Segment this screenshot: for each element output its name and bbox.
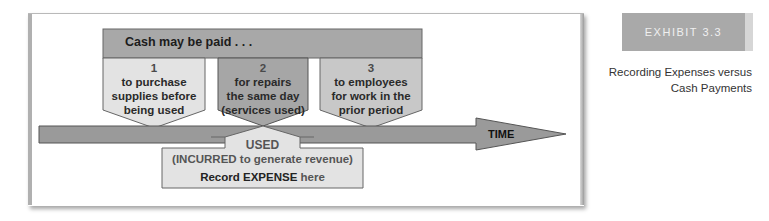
record-suffix: here	[301, 171, 325, 183]
used-title: USED	[162, 138, 363, 152]
box-3-line-1: to employees	[320, 75, 422, 89]
box-2-line-3: (services used)	[218, 103, 308, 117]
box-3-number: 3	[320, 61, 422, 75]
used-subtitle: (INCURRED to generate revenue)	[162, 153, 363, 165]
box-1-line-1: to purchase	[103, 75, 205, 89]
time-label: TIME	[488, 128, 514, 140]
record-prefix: Record	[200, 171, 240, 183]
box-1-line-2: supplies before	[103, 89, 205, 103]
box-2-line-2: the same day	[218, 89, 308, 103]
exhibit-caption: Recording Expenses versus Cash Payments	[582, 64, 752, 96]
box-2-line-1: for repairs	[218, 75, 308, 89]
box-1-text: 1 to purchase supplies before being used	[103, 61, 205, 117]
header-label: Cash may be paid . . .	[125, 35, 252, 49]
caption-line-2: Cash Payments	[582, 80, 752, 96]
box-1-number: 1	[103, 61, 205, 75]
used-record-line: Record EXPENSE here	[162, 171, 363, 183]
box-3-line-2: for work in the	[320, 89, 422, 103]
box-2-number: 2	[218, 61, 308, 75]
box-2-text: 2 for repairs the same day (services use…	[218, 61, 308, 117]
box-3-text: 3 to employees for work in the prior per…	[320, 61, 422, 117]
box-3-line-3: prior period	[320, 103, 422, 117]
record-emphasis: EXPENSE	[243, 171, 297, 183]
caption-line-1: Recording Expenses versus	[582, 64, 752, 80]
box-1-line-3: being used	[103, 103, 205, 117]
exhibit-tag: EXHIBIT 3.3	[622, 13, 745, 51]
